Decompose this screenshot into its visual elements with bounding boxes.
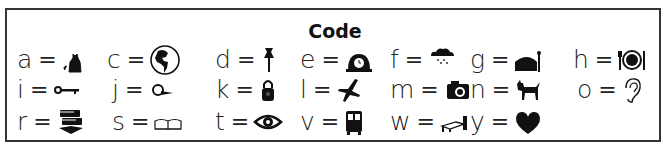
code-entry-m: m = <box>390 75 473 105</box>
letter: y <box>470 107 485 137</box>
code-entry-i: i = <box>17 75 82 105</box>
code-entry-f: f = <box>390 45 457 75</box>
plate-fork-knife-icon <box>617 46 647 74</box>
equals-sign: = <box>491 107 509 137</box>
letter: i <box>17 75 24 105</box>
equals-sign: = <box>491 45 509 75</box>
key-icon <box>52 76 82 104</box>
equals-sign: = <box>237 45 255 75</box>
equals-sign: = <box>321 45 339 75</box>
equals-sign: = <box>33 107 51 137</box>
letter: h <box>573 45 589 75</box>
equals-sign: = <box>416 107 434 137</box>
letter: d <box>215 45 231 75</box>
equals-sign: = <box>313 75 331 105</box>
camera-icon <box>443 76 473 104</box>
books-icon <box>56 108 86 136</box>
code-entry-k: k = <box>215 75 278 105</box>
cat-icon <box>61 46 91 74</box>
bed-icon <box>439 108 469 136</box>
code-entry-c: c = <box>107 45 181 75</box>
dog-icon <box>514 76 544 104</box>
code-entry-n: n = <box>470 75 544 105</box>
letter: s <box>112 107 125 137</box>
equals-sign: = <box>405 45 423 75</box>
code-entry-t: t = <box>215 107 283 137</box>
equals-sign: = <box>235 75 253 105</box>
code-entry-v: v = <box>300 107 365 137</box>
equals-sign: = <box>131 107 149 137</box>
letter: o <box>577 75 592 105</box>
rain-cloud-icon <box>427 46 457 74</box>
open-book-icon <box>153 108 183 136</box>
globe-icon <box>149 44 181 76</box>
letter: t <box>215 107 225 137</box>
letter: m <box>390 75 414 105</box>
letter: e <box>300 45 315 75</box>
code-entry-g: g = <box>470 45 543 75</box>
equals-sign: = <box>598 75 616 105</box>
pushpin-icon <box>259 46 279 74</box>
heart-icon <box>513 108 543 136</box>
letter: a <box>17 45 32 75</box>
title: Code <box>7 20 663 42</box>
equals-sign: = <box>38 45 56 75</box>
equals-sign: = <box>420 75 438 105</box>
equals-sign: = <box>30 75 48 105</box>
mantel-clock-icon <box>344 46 374 74</box>
code-entry-j: j = <box>112 75 177 105</box>
equals-sign: = <box>595 45 613 75</box>
letter: j <box>112 75 119 105</box>
airplane-icon <box>335 76 365 104</box>
bus-icon <box>343 108 365 136</box>
eye-icon <box>253 108 283 136</box>
equals-sign: = <box>127 45 145 75</box>
equals-sign: = <box>125 75 143 105</box>
code-entry-w: w = <box>390 107 469 137</box>
letter: k <box>215 75 229 105</box>
code-entry-a: a = <box>17 45 91 75</box>
letter: f <box>390 45 399 75</box>
code-entry-o: o = <box>577 75 643 105</box>
ear-icon <box>621 76 643 104</box>
letter: l <box>300 75 307 105</box>
code-entry-h: h = <box>573 45 647 75</box>
code-entry-s: s = <box>112 107 183 137</box>
code-entry-d: d = <box>215 45 279 75</box>
magnifier-icon <box>147 76 177 104</box>
equals-sign: = <box>492 75 510 105</box>
letter: c <box>107 45 121 75</box>
letter: n <box>470 75 486 105</box>
equals-sign: = <box>231 107 249 137</box>
code-entry-r: r = <box>17 107 86 137</box>
letter: v <box>300 107 315 137</box>
code-entry-e: e = <box>300 45 374 75</box>
code-entry-y: y = <box>470 107 543 137</box>
cake-icon <box>513 46 543 74</box>
letter: g <box>470 45 485 75</box>
equals-sign: = <box>321 107 339 137</box>
letter: w <box>390 107 410 137</box>
padlock-icon <box>258 76 278 104</box>
letter: r <box>17 107 27 137</box>
code-entry-l: l = <box>300 75 365 105</box>
